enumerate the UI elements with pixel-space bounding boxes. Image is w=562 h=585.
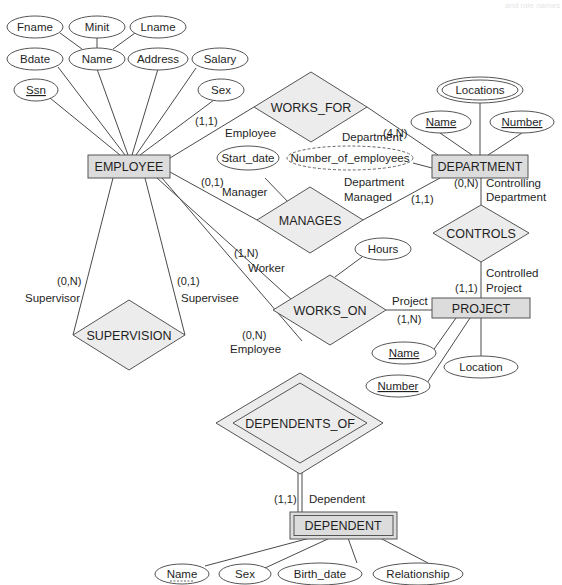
attribute-dependent-sex[interactable]: Sex (219, 564, 271, 584)
svg-text:Minit: Minit (85, 21, 110, 33)
svg-text:Sex: Sex (235, 568, 255, 580)
attribute-hours[interactable]: Hours (355, 238, 411, 260)
attribute-address[interactable]: Address (128, 48, 188, 70)
entity-project-label: PROJECT (452, 302, 511, 316)
role-name: Controlling (486, 177, 541, 189)
svg-text:Salary: Salary (204, 53, 237, 65)
role-name: Department (342, 131, 403, 143)
cardinality: (1,1) (195, 115, 218, 127)
role-name: Department (486, 191, 547, 203)
entity-dependent-label: DEPENDENT (304, 519, 381, 533)
attribute-dependent-birth-date[interactable]: Birth_date (278, 563, 362, 585)
cardinality: (1,1) (411, 193, 434, 205)
cardinality: (0,1) (201, 176, 224, 188)
attribute-project-location[interactable]: Location (444, 356, 518, 378)
key-attribute: Number (502, 116, 543, 128)
attribute-fname[interactable]: Fname (7, 16, 63, 38)
relationship-supervision-label: SUPERVISION (86, 329, 171, 343)
role-name: Worker (248, 262, 285, 274)
role-name: Employee (230, 343, 281, 355)
attribute-ssn[interactable]: Ssn (14, 79, 58, 101)
cardinality: (0,N) (57, 275, 81, 287)
cardinality: (1,N) (397, 313, 421, 325)
svg-text:Location: Location (459, 361, 502, 373)
cardinality: (1,1) (274, 493, 297, 505)
svg-text:Hours: Hours (368, 243, 399, 255)
role-name: Dependent (309, 493, 366, 505)
role-name: Employee (225, 127, 276, 139)
derived-attribute: Number_of_employees (291, 152, 410, 164)
svg-text:Sex: Sex (211, 84, 231, 96)
role-name: Project (392, 295, 429, 307)
attribute-salary[interactable]: Salary (192, 48, 248, 70)
attribute-project-number[interactable]: Number (366, 375, 430, 397)
role-name: Supervisee (181, 292, 239, 304)
attribute-lname[interactable]: Lname (130, 16, 186, 38)
cardinality: (1,N) (234, 247, 258, 259)
entity-department-label: DEPARTMENT (438, 160, 523, 174)
key-attribute: Number (378, 380, 419, 392)
svg-text:Birth_date: Birth_date (294, 568, 346, 580)
entity-dependent[interactable]: DEPENDENT (290, 512, 397, 539)
partial-key-attribute: Name (167, 568, 198, 580)
relationship-works-on-label: WORKS_ON (294, 304, 367, 318)
attribute-dependent-name[interactable]: Name (155, 564, 209, 584)
entity-project[interactable]: PROJECT (432, 298, 530, 318)
entity-department[interactable]: DEPARTMENT (432, 155, 528, 178)
attribute-project-name[interactable]: Name (372, 342, 436, 364)
role-name: Managed (344, 191, 392, 203)
attribute-name[interactable]: Name (69, 48, 125, 70)
relationship-manages-label: MANAGES (279, 214, 342, 228)
cardinality: (0,1) (177, 275, 200, 287)
relationship-works-for-label: WORKS_FOR (271, 101, 352, 115)
role-name: Project (486, 282, 523, 294)
cardinality: (0,N) (242, 329, 266, 341)
role-name: Controlled (486, 267, 538, 279)
svg-text:Bdate: Bdate (20, 53, 50, 65)
attribute-start-date[interactable]: Start_date (217, 146, 279, 170)
multivalued-attribute: Locations (455, 84, 504, 96)
key-attribute: Ssn (26, 84, 46, 96)
attribute-minit[interactable]: Minit (69, 16, 125, 38)
svg-text:Fname: Fname (17, 21, 53, 33)
corner-caption: and role names (505, 1, 560, 10)
attribute-department-name[interactable]: Name (411, 111, 471, 133)
svg-text:Start_date: Start_date (221, 152, 274, 164)
key-attribute: Name (389, 347, 420, 359)
er-diagram: and role names (0, 0, 562, 585)
relationship-dependents-of-label: DEPENDENTS_OF (245, 417, 355, 431)
entity-employee-label: EMPLOYEE (95, 160, 164, 174)
relationship-controls-label: CONTROLS (446, 227, 515, 241)
role-name: Manager (222, 186, 268, 198)
relationship-controls[interactable]: CONTROLS (433, 205, 529, 262)
role-name: Supervisor (25, 292, 80, 304)
attribute-dependent-relationship[interactable]: Relationship (373, 563, 463, 585)
svg-text:Name: Name (82, 53, 113, 65)
relationship-works-on[interactable]: WORKS_ON (273, 275, 386, 345)
svg-text:Relationship: Relationship (386, 568, 449, 580)
relationship-dependents-of[interactable]: DEPENDENTS_OF (216, 373, 383, 474)
key-attribute: Name (426, 116, 457, 128)
role-name: Department (344, 176, 405, 188)
cardinality: (1,1) (455, 282, 478, 294)
attribute-locations[interactable]: Locations (437, 77, 523, 103)
svg-text:Address: Address (137, 53, 179, 65)
relationship-supervision[interactable]: SUPERVISION (73, 300, 185, 370)
attribute-number-of-employees[interactable]: Number_of_employees (287, 146, 413, 170)
attribute-sex[interactable]: Sex (198, 79, 244, 101)
svg-text:Lname: Lname (140, 21, 175, 33)
cardinality: (0,N) (454, 177, 478, 189)
attribute-bdate[interactable]: Bdate (7, 48, 63, 70)
entity-employee[interactable]: EMPLOYEE (88, 155, 170, 178)
attribute-department-number[interactable]: Number (490, 111, 554, 133)
